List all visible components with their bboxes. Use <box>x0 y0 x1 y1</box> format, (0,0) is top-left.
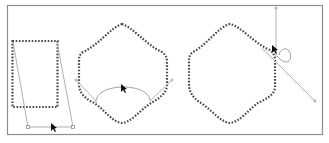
panel-hexagon-curve <box>75 24 173 123</box>
cursor-arrow-icon <box>121 84 127 93</box>
handle-knob-left-tip[interactable] <box>75 79 77 81</box>
diagram-canvas <box>0 0 329 143</box>
handle-line-right[interactable] <box>57 42 73 127</box>
cursor-arrow-icon <box>51 123 57 132</box>
handle-knob-right-tip[interactable] <box>171 79 173 81</box>
dotted-hexagon-path-middle[interactable] <box>79 24 167 123</box>
handle-knob-top[interactable] <box>275 7 277 9</box>
cursor-arrow-icon <box>272 45 278 54</box>
handle-knob-left[interactable] <box>27 126 30 129</box>
rotation-loop-handle[interactable] <box>277 49 291 62</box>
panel-hexagon-node <box>189 7 316 123</box>
panel-rectangle-skew <box>13 41 75 132</box>
handle-line-left[interactable] <box>13 42 28 127</box>
dotted-hexagon-path-right[interactable] <box>189 24 275 123</box>
handle-knob-right[interactable] <box>72 126 75 129</box>
tangent-handle-right[interactable] <box>150 80 172 101</box>
handle-line-diagonal[interactable] <box>262 48 315 101</box>
dotted-rectangle-path[interactable] <box>13 41 58 107</box>
handle-knob-bottom-right[interactable] <box>314 100 316 102</box>
